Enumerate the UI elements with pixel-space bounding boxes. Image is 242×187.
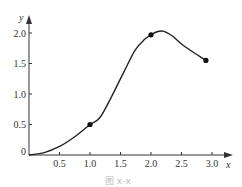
data-point-marker (87, 122, 92, 127)
x-tick-label: 0.5 (53, 158, 66, 169)
x-tick-label: 2.5 (175, 158, 188, 169)
y-tick-label: 1.0 (14, 89, 27, 100)
data-point-marker (148, 32, 153, 37)
y-axis-arrow-icon (26, 15, 32, 24)
chart: x y 0.51.01.52.02.53.0 00.51.01.52.0 图 x… (0, 0, 242, 187)
x-axis-arrow-icon (224, 152, 233, 158)
y-tick-label: 0 (21, 146, 26, 157)
data-curve (29, 31, 206, 155)
axes: x y (18, 12, 233, 170)
x-tick-label: 1.5 (114, 158, 127, 169)
x-tick-label: 1.0 (84, 158, 97, 169)
y-tick-label: 1.5 (14, 58, 27, 69)
x-tick-label: 3.0 (206, 158, 219, 169)
y-tick-label: 2.0 (14, 28, 27, 39)
marked-points (87, 32, 208, 127)
x-axis-label: x (225, 159, 231, 170)
figure-caption: 图 x-x (105, 176, 131, 186)
y-axis-label: y (18, 12, 24, 23)
x-tick-label: 2.0 (145, 158, 158, 169)
data-point-marker (203, 58, 208, 63)
y-tick-label: 0.5 (14, 119, 27, 130)
